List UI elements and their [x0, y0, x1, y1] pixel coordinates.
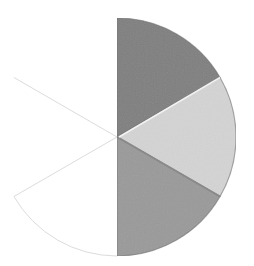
pie-slice-empty-arc [14, 197, 117, 257]
pie-slices [14, 18, 236, 256]
pie-divider-line [14, 78, 117, 138]
fraction-pie-chart [0, 0, 254, 266]
pie-divider-line [14, 137, 117, 197]
